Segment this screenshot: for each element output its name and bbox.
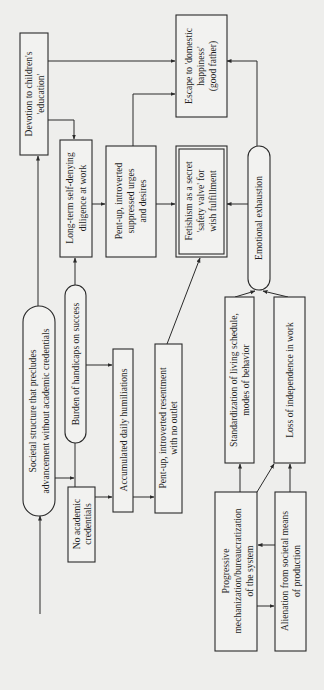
node-label: advancement without academic credentials (40, 328, 51, 493)
node-label: Standardization of living schedule, (228, 313, 239, 447)
node-label: credentials (82, 503, 93, 545)
node-label: Pent-up, introverted (113, 162, 124, 239)
node-label: Escape to 'domestic (183, 28, 194, 104)
node-label: wish fulfillment (207, 170, 218, 232)
node-no-academic-credentials: No academic credentials (68, 487, 95, 562)
edge-standardization-exhaustion (235, 291, 255, 297)
node-label: Devotion to children's (23, 51, 34, 136)
edge-devotion-longterm (48, 120, 74, 139)
node-fetishism: Fetishism as a secret 'safety valve' for… (176, 146, 227, 257)
node-label: Loss of independence in work (284, 322, 295, 438)
node-label: Pent-up, introverted resentment (157, 367, 168, 489)
node-label: suppressed urges (125, 168, 136, 233)
edge-progressive-independence (257, 464, 274, 492)
node-label: Progressive (220, 549, 231, 594)
edge-independence-exhaustion (263, 291, 288, 297)
node-standardization: Standardization of living schedule, mode… (225, 297, 254, 463)
node-longterm-diligence: Long-term self-denying diligence at work (60, 140, 92, 257)
node-label: No academic (71, 499, 82, 549)
node-label: Fetishism as a secret (183, 161, 194, 240)
node-progressive-mechanization: Progressive mechanization/bureaucratizat… (215, 492, 257, 651)
node-emotional-exhaustion: Emotional exhaustion (248, 146, 270, 290)
node-label: with no outlet (168, 401, 179, 455)
node-accumulated-humiliations: Accumulated daily humiliations (113, 349, 133, 512)
node-label: Accumulated daily humiliations (118, 368, 129, 491)
node-label: of production (291, 545, 302, 597)
node-label: and desires (137, 179, 148, 222)
node-label: Societal structure that precludes (27, 349, 38, 472)
edge-urges-escape (133, 94, 175, 146)
node-label: Long-term self-denying (64, 152, 75, 244)
node-burden-of-handicaps: Burden of handicaps on success (65, 285, 86, 443)
node-escape-domestic-happiness: Escape to 'domestic happiness' (good fat… (176, 15, 227, 117)
node-pentup-urges: Pent-up, introverted suppressed urges an… (106, 146, 156, 257)
node-label: mechanization/bureaucratization (232, 508, 243, 633)
node-label: Alienation from societal means (279, 511, 290, 631)
node-label: (good father) (207, 41, 219, 91)
node-label: Burden of handicaps on success (70, 302, 81, 425)
edge-resentment-fetishism (167, 258, 200, 344)
node-label: 'education' (35, 73, 46, 114)
node-label: modes of behavior (240, 343, 251, 415)
node-alienation: Alienation from societal means of produc… (275, 492, 306, 651)
node-label: happiness' (195, 46, 206, 86)
node-societal-structure: Societal structure that precludes advanc… (23, 306, 55, 516)
node-devotion-education: Devotion to children's 'education' (20, 33, 48, 155)
node-pentup-resentment: Pent-up, introverted resentment with no … (155, 344, 182, 513)
flow-diagram: Societal structure that precludes advanc… (0, 0, 324, 690)
node-label: Emotional exhaustion (253, 176, 264, 260)
node-label: diligence at work (77, 165, 88, 232)
node-label: 'safety valve' for (195, 169, 206, 233)
edge-exhaustion-escape (227, 61, 257, 146)
node-loss-of-independence: Loss of independence in work (274, 297, 305, 463)
node-label: of the system (244, 545, 255, 597)
